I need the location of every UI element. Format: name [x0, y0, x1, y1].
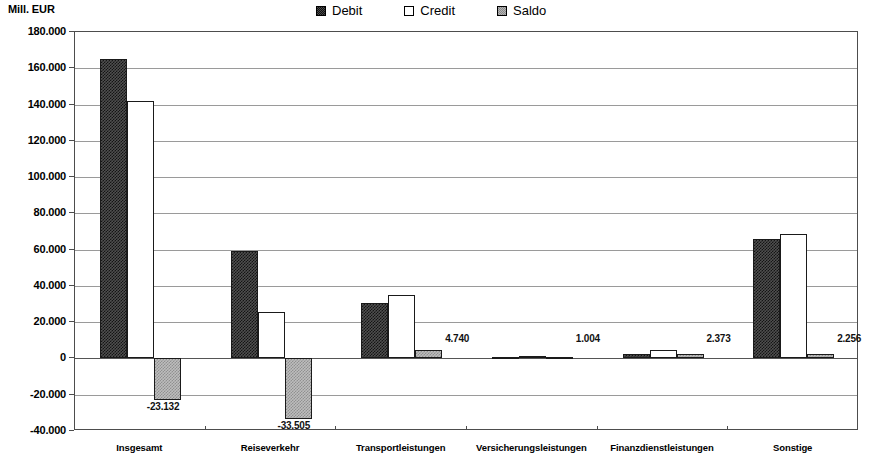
legend-item-saldo: Saldo	[497, 3, 546, 18]
y-axis-tick-label: 140.000	[28, 98, 66, 110]
x-axis-category-label: Versicherungsleistungen	[476, 442, 587, 453]
y-axis-tick-mark	[69, 212, 74, 213]
plot-area	[74, 31, 858, 430]
y-axis-tick-label: 20.000	[34, 315, 66, 327]
x-axis-category-label: Transportleistungen	[356, 442, 445, 453]
y-axis-tick-label: 0	[60, 351, 66, 363]
y-axis-tick-label: 80.000	[34, 206, 66, 218]
bar-chart: Mill. EUR Debit Credit Saldo 180.000160.…	[0, 0, 872, 468]
x-axis-category-label: Reiseverkehr	[241, 442, 299, 453]
legend-item-credit: Credit	[404, 3, 455, 18]
data-point-label: 2.256	[837, 333, 861, 344]
x-axis-tick-mark	[727, 426, 728, 430]
credit-swatch-icon	[404, 6, 414, 16]
y-axis-tick-label: 120.000	[28, 134, 66, 146]
y-axis-tick-label: 180.000	[28, 25, 66, 37]
y-axis-tick-mark	[69, 321, 74, 322]
x-axis-tick-mark	[466, 426, 467, 430]
data-point-label: 2.373	[707, 333, 731, 344]
y-axis-tick-mark	[69, 67, 74, 68]
bar-debit	[753, 239, 780, 359]
y-axis-tick-label: 40.000	[34, 279, 66, 291]
x-axis-tick-mark	[205, 426, 206, 430]
x-axis-tick-mark	[597, 426, 598, 430]
bar-group	[75, 32, 857, 429]
y-axis-tick-label: 60.000	[34, 243, 66, 255]
x-axis-tick-mark	[74, 426, 75, 430]
legend-item-debit: Debit	[316, 3, 362, 18]
legend-label-credit: Credit	[420, 3, 455, 18]
legend-label-debit: Debit	[332, 3, 362, 18]
y-axis-tick-mark	[69, 176, 74, 177]
y-axis-tick-mark	[69, 140, 74, 141]
y-axis-tick-mark	[69, 104, 74, 105]
y-axis-tick-mark	[69, 285, 74, 286]
x-axis-category-label: Insgesamt	[116, 442, 162, 453]
y-axis-tick-mark	[69, 31, 74, 32]
x-axis-tick-mark	[335, 426, 336, 430]
y-axis-tick-mark	[69, 357, 74, 358]
y-axis-unit-caption: Mill. EUR	[8, 3, 55, 15]
x-axis-category-label: Sonstige	[773, 442, 812, 453]
data-point-label: 1.004	[576, 333, 600, 344]
chart-legend: Debit Credit Saldo	[316, 3, 546, 18]
bar-saldo	[807, 354, 834, 358]
x-axis-category-label: Finanzdienstleistungen	[610, 442, 713, 453]
bar-credit	[780, 234, 807, 358]
y-axis-tick-label: -20.000	[30, 388, 66, 400]
legend-label-saldo: Saldo	[513, 3, 546, 18]
y-axis-tick-label: -40.000	[30, 424, 66, 436]
debit-swatch-icon	[316, 6, 326, 16]
saldo-swatch-icon	[497, 6, 507, 16]
y-axis-tick-label: 100.000	[28, 170, 66, 182]
y-axis-tick-mark	[69, 394, 74, 395]
data-point-label: -23.132	[147, 401, 180, 412]
y-axis-tick-label: 160.000	[28, 61, 66, 73]
data-point-label: 4.740	[445, 333, 469, 344]
data-point-label: -33.505	[278, 420, 311, 431]
y-axis-tick-mark	[69, 249, 74, 250]
y-axis-tick-mark	[69, 430, 74, 431]
